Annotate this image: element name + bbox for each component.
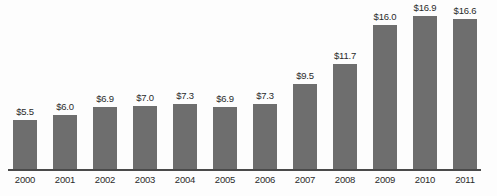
bar-value-label: $6.9	[85, 93, 125, 104]
category-label: 2001	[45, 174, 85, 185]
bar-value-label: $7.0	[125, 92, 165, 103]
bar-group: $9.5	[285, 0, 325, 170]
x-axis-line	[8, 169, 481, 171]
bar[interactable]	[53, 115, 77, 170]
bar[interactable]	[453, 19, 477, 170]
category-label: 2000	[5, 174, 45, 185]
bar-group: $7.0	[125, 0, 165, 170]
bar[interactable]	[93, 107, 117, 170]
category-label: 2010	[405, 174, 445, 185]
bar[interactable]	[133, 106, 157, 170]
bar-group: $6.0	[45, 0, 85, 170]
bar-group: $6.9	[85, 0, 125, 170]
bar-value-label: $9.5	[285, 70, 325, 81]
bar[interactable]	[413, 16, 437, 170]
bar-group: $6.9	[205, 0, 245, 170]
category-label: 2007	[285, 174, 325, 185]
bar-value-label: $5.5	[5, 106, 45, 117]
bar-value-label: $16.9	[405, 2, 445, 13]
bar[interactable]	[173, 104, 197, 170]
category-label: 2009	[365, 174, 405, 185]
bar[interactable]	[333, 64, 357, 170]
bar[interactable]	[13, 120, 37, 170]
category-label: 2011	[445, 174, 485, 185]
plot-area: $5.5$6.0$6.9$7.0$7.3$6.9$7.3$9.5$11.7$16…	[0, 0, 497, 170]
bar-value-label: $7.3	[245, 90, 285, 101]
bar-group: $16.9	[405, 0, 445, 170]
bar-value-label: $16.6	[445, 5, 485, 16]
bar-group: $7.3	[245, 0, 285, 170]
bar-value-label: $7.3	[165, 90, 205, 101]
bar-group: $7.3	[165, 0, 205, 170]
category-label: 2004	[165, 174, 205, 185]
category-label: 2002	[85, 174, 125, 185]
bar-value-label: $6.0	[45, 101, 85, 112]
bar-group: $16.6	[445, 0, 485, 170]
bar[interactable]	[253, 104, 277, 170]
bar-group: $16.0	[365, 0, 405, 170]
category-label: 2008	[325, 174, 365, 185]
bar-value-label: $6.9	[205, 93, 245, 104]
bar-value-label: $11.7	[325, 50, 365, 61]
category-label: 2005	[205, 174, 245, 185]
bar-group: $5.5	[5, 0, 45, 170]
bar[interactable]	[213, 107, 237, 170]
category-label: 2006	[245, 174, 285, 185]
bar[interactable]	[293, 84, 317, 170]
bar-group: $11.7	[325, 0, 365, 170]
category-axis: 2000200120022003200420052006200720082009…	[0, 174, 497, 196]
bar-chart: $5.5$6.0$6.9$7.0$7.3$6.9$7.3$9.5$11.7$16…	[0, 0, 497, 196]
bar[interactable]	[373, 25, 397, 170]
bar-value-label: $16.0	[365, 11, 405, 22]
category-label: 2003	[125, 174, 165, 185]
